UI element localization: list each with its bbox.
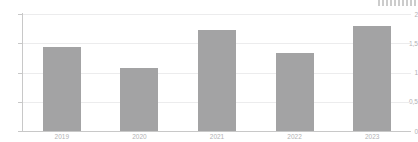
y-tick-mark <box>18 102 22 103</box>
watermark-icon <box>378 0 418 6</box>
x-tick-label-2021: 2021 <box>197 133 237 141</box>
y-tick-mark <box>18 43 22 44</box>
y-tick-mark <box>18 131 22 132</box>
gridline-0 <box>23 131 411 132</box>
y-tick-mark <box>18 14 22 15</box>
x-tick-label-2020: 2020 <box>119 133 159 141</box>
bar-2019 <box>43 47 81 131</box>
plot-area <box>23 14 411 131</box>
bar-chart: 00,511,52 20192020202120222023 <box>0 0 418 142</box>
bar-2021 <box>198 30 236 131</box>
bar-2022 <box>276 53 314 131</box>
x-tick-label-2022: 2022 <box>275 133 315 141</box>
x-tick-label-2023: 2023 <box>352 133 392 141</box>
bar-2023 <box>353 26 391 131</box>
gridline-2 <box>23 14 411 15</box>
y-tick-mark <box>18 73 22 74</box>
bar-2020 <box>120 68 158 131</box>
x-tick-label-2019: 2019 <box>42 133 82 141</box>
